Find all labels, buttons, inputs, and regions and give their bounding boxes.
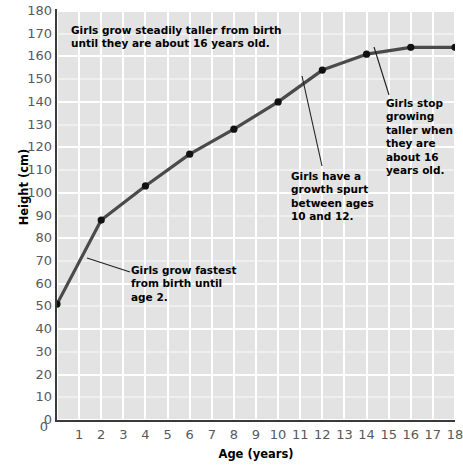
data-point-marker bbox=[407, 44, 414, 51]
y-tick-label: 160 bbox=[6, 49, 52, 62]
y-tick-label: 90 bbox=[6, 209, 52, 222]
y-axis-tick-labels: 0102030405060708090100110120130140150160… bbox=[0, 0, 52, 469]
y-tick-label: 110 bbox=[6, 163, 52, 176]
y-tick-label: 70 bbox=[6, 254, 52, 267]
y-tick-label: 170 bbox=[6, 27, 52, 40]
height-vs-age-line-chart: Height (cm) 0102030405060708090100110120… bbox=[0, 0, 463, 469]
data-point-marker bbox=[275, 98, 282, 105]
x-axis-line bbox=[55, 420, 455, 422]
data-point-marker bbox=[142, 182, 149, 189]
y-tick-label: 30 bbox=[6, 345, 52, 358]
data-point-marker bbox=[230, 126, 237, 133]
x-axis-tick-labels: 0123456789101112131415161718 bbox=[0, 426, 463, 446]
y-tick-label: 50 bbox=[6, 299, 52, 312]
data-point-marker bbox=[98, 216, 105, 223]
data-point-marker bbox=[186, 151, 193, 158]
y-tick-label: 60 bbox=[6, 277, 52, 290]
plot-area bbox=[57, 11, 455, 420]
y-tick-label: 80 bbox=[6, 231, 52, 244]
y-tick-label: 150 bbox=[6, 72, 52, 85]
data-series-svg bbox=[57, 11, 455, 420]
y-tick-label: 20 bbox=[6, 368, 52, 381]
annotation-stop-growing: Girls stop growing taller when they are … bbox=[386, 97, 463, 178]
y-tick-label: 120 bbox=[6, 140, 52, 153]
y-tick-label: 130 bbox=[6, 118, 52, 131]
x-tick-label: 18 bbox=[442, 428, 463, 441]
y-tick-label: 180 bbox=[6, 4, 52, 17]
y-tick-label: 140 bbox=[6, 95, 52, 108]
y-tick-label: 100 bbox=[6, 186, 52, 199]
x-axis-title: Age (years) bbox=[57, 447, 455, 461]
data-point-marker bbox=[319, 66, 326, 73]
annotation-growth-spurt: Girls have a growth spurt between ages 1… bbox=[291, 170, 391, 224]
data-point-marker bbox=[451, 44, 455, 51]
annotation-grow-fastest: Girls grow fastest from birth until age … bbox=[131, 264, 249, 304]
data-point-marker bbox=[363, 51, 370, 58]
annotation-steady-growth: Girls grow steadily taller from birth un… bbox=[71, 24, 351, 51]
y-tick-label: 10 bbox=[6, 390, 52, 403]
y-tick-label: 40 bbox=[6, 322, 52, 335]
x-tick-label: 0 bbox=[31, 420, 57, 433]
